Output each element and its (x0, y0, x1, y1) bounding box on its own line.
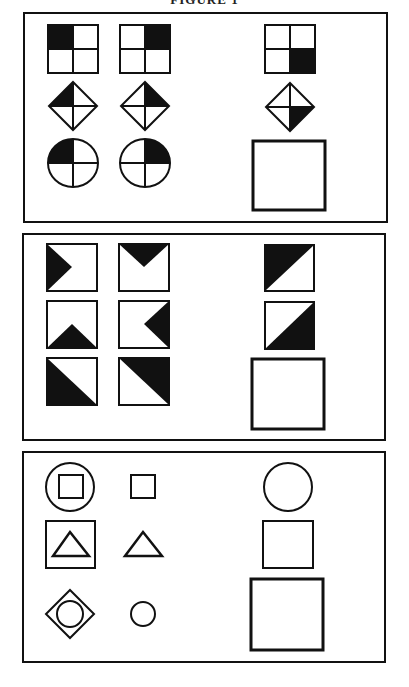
p1-circle-top-left (48, 139, 98, 187)
p2-upper-left-half (265, 245, 314, 291)
p3-circle-small (131, 602, 155, 626)
p3-answer-box[interactable] (251, 579, 323, 650)
p1-diamond-bottom-right (266, 83, 314, 131)
p3-triangle (125, 532, 162, 556)
p3-circle-with-square (46, 463, 94, 511)
p3-square (131, 475, 155, 498)
p3-square-with-triangle (46, 521, 95, 568)
p3-square-large (263, 521, 313, 568)
p2-top-wedge (119, 244, 169, 291)
p2-bottom-wedge (47, 301, 97, 348)
p3-circle (264, 463, 312, 511)
p2-lower-left-half (47, 358, 97, 405)
p1-square-top-right (120, 25, 170, 73)
p1-diamond-top-right (121, 82, 169, 130)
p1-answer-box[interactable] (253, 141, 325, 210)
p1-square-bottom-right (265, 25, 315, 73)
puzzle-figure (0, 0, 409, 687)
p1-diamond-top-left (49, 82, 97, 130)
panel-1-frame (24, 13, 387, 222)
p2-upper-right-half (119, 358, 169, 405)
p2-lower-right-half (265, 302, 314, 349)
p2-right-wedge (119, 301, 169, 348)
p1-circle-top-right (120, 139, 170, 187)
p3-diamond-with-circle (46, 590, 94, 638)
p1-square-top-left (48, 25, 98, 73)
p2-left-wedge (47, 244, 97, 291)
p2-answer-box[interactable] (252, 359, 324, 429)
